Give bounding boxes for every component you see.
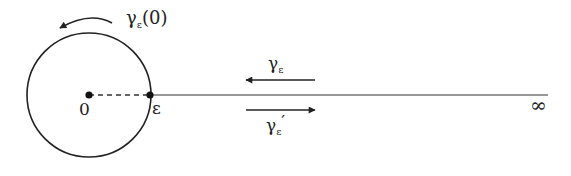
lower-path-label: γε′ — [266, 111, 285, 137]
infinity-label: ∞ — [530, 93, 547, 117]
upper-path-subscript: ε — [278, 64, 283, 75]
lower-path-gamma: γ — [266, 115, 276, 135]
circle-path-argument: (0) — [142, 7, 168, 28]
epsilon-label: ε — [152, 98, 161, 118]
circle-path-gamma: γ — [126, 7, 137, 28]
origin-point — [85, 91, 92, 98]
circle-path-label: γε(0) — [126, 7, 167, 30]
keyhole-contour-diagram: 0 ε γε(0) γε γε′ ∞ — [0, 0, 571, 176]
lower-path-prime: ′ — [281, 111, 285, 131]
upper-path-label: γε — [268, 53, 283, 75]
origin-label: 0 — [79, 99, 90, 119]
upper-path-gamma: γ — [268, 53, 278, 73]
counterclockwise-arrow-icon — [60, 18, 112, 28]
